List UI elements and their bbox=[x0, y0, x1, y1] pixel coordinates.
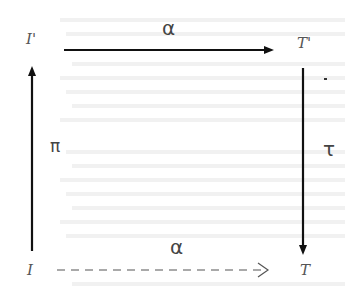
label-tau: τ bbox=[323, 139, 335, 159]
label-pi: π bbox=[50, 138, 60, 155]
arrowhead-icon bbox=[264, 46, 274, 54]
node-i-prime: I' bbox=[26, 32, 36, 47]
stray-dot bbox=[324, 78, 327, 80]
node-t-prime: T' bbox=[297, 36, 311, 51]
arrow-right-tau bbox=[299, 68, 307, 255]
arrowhead-icon bbox=[299, 245, 307, 255]
arrowhead-icon bbox=[28, 66, 36, 76]
node-t: T bbox=[300, 263, 310, 278]
label-alpha-bottom: α bbox=[170, 237, 183, 257]
label-alpha-top: α bbox=[162, 18, 175, 38]
arrow-top-alpha bbox=[64, 46, 274, 54]
arrow-bottom-alpha-dashed bbox=[57, 263, 268, 277]
node-i: I bbox=[27, 263, 33, 278]
arrow-left-pi bbox=[28, 66, 36, 251]
